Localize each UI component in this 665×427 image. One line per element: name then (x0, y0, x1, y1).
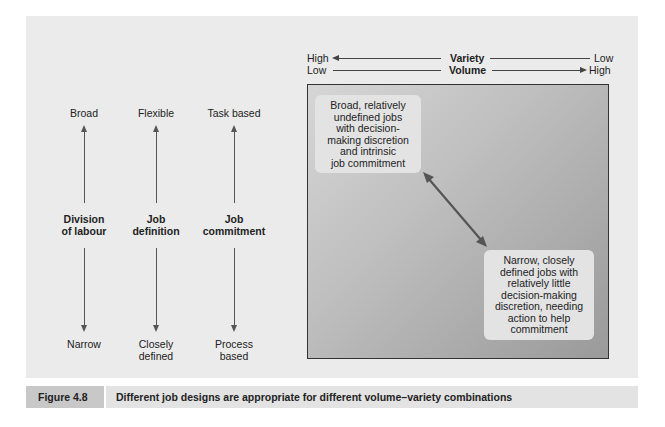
callout-narrow-jobs: Narrow, closely defined jobs with relati… (484, 250, 594, 340)
figure-caption: Different job designs are appropriate fo… (106, 386, 638, 408)
callout-line: Narrow, closely (490, 255, 588, 267)
figure-number: Figure 4.8 (26, 386, 104, 408)
callout-line: discretion, needing (490, 301, 588, 313)
callout-line: relatively little (490, 278, 588, 290)
callout-line: commitment (490, 324, 588, 336)
double-arrow-icon (0, 0, 665, 427)
